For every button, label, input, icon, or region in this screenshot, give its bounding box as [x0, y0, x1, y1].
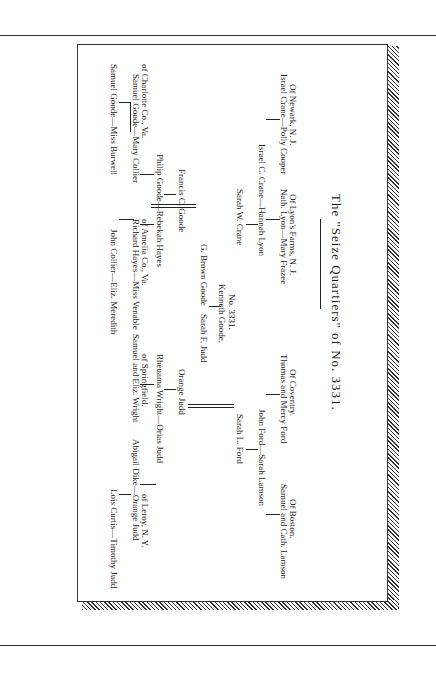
person-samuel-goode-miss-burwell: Samuel Goode—Miss Burwell: [109, 64, 118, 175]
connector-line: [266, 119, 280, 120]
location-amelia-co: of Amelia Co., Va.: [140, 219, 149, 286]
top-page-rule: [0, 35, 436, 36]
location-newark-nj: Of Newark, N. J.: [288, 84, 297, 145]
chart-title: The "Seize Quartiers" of No. 3331.: [328, 194, 344, 411]
person-rheuama-wright-orias-judd: Rheuama Wright—Orias Judd: [155, 354, 164, 463]
location-springfield: of Springfield.: [140, 354, 149, 407]
person-richard-hayes-miss-venable: Richard Hayes—Miss Venable: [131, 219, 140, 330]
bottom-page-rule: [0, 645, 436, 646]
genealogy-chart: Samuel Goode—Miss Burwell John Collier—E…: [77, 44, 386, 600]
location-lyons-farms-nj: Of Lyon's Farms, N. J.: [288, 194, 297, 275]
connector-line: [140, 174, 154, 175]
double-line-judd: [188, 407, 234, 408]
person-sarah-l-ford: Sarah L. Ford: [235, 414, 244, 464]
connector-line: [119, 494, 131, 495]
person-sarah-f-judd: Sarah F. Judd: [199, 314, 208, 363]
person-nath-lyon-mary-frazee: Nath. Lyon—Mary Frazee: [279, 189, 288, 284]
double-line-goode: [151, 204, 196, 205]
subject-kenneth-goode: Kenneth Goode,: [217, 284, 226, 343]
person-israel-crane-polly-cooper: Israel Crane—Polly Cooper: [279, 74, 288, 174]
connector-line: [246, 224, 258, 225]
connector-line: [140, 484, 156, 485]
box-shadow-right: [387, 46, 399, 610]
connector-line: [266, 394, 280, 395]
person-john-ford-sarah-lamson: John Ford—Sarah Lamson: [257, 409, 266, 506]
double-line-goode: [151, 207, 196, 208]
double-line-judd: [188, 404, 234, 405]
connector-line: [209, 306, 221, 307]
connector-line: [140, 224, 154, 225]
person-john-collier-eliz-meredith: John Collier—Eliz. Meredith: [109, 229, 118, 334]
person-samuel-eliz-wright: Samuel and Eliz. Wright: [131, 334, 140, 422]
connector-line: [266, 514, 280, 515]
connector-line: [266, 219, 280, 220]
person-thomas-mercy-ford: Thomas and Mercy Ford: [279, 354, 288, 443]
connector-line: [246, 449, 258, 450]
person-samuel-cath-lamson: Samuel and Cath. Lamson: [279, 484, 288, 579]
caption-rule: [320, 219, 321, 309]
person-samuel-goode-mary-collier: Samuel Goode—Mary Collier: [131, 74, 140, 183]
connector-line: [164, 194, 176, 195]
person-lois-curtis-timothy-judd: Lois Curtis—Timothy Judd: [109, 489, 118, 588]
location-leroy-ny: of Leroy, N. Y.: [140, 494, 149, 547]
connector-line: [140, 384, 154, 385]
connector-line: [130, 102, 131, 132]
location-charlotte-co: of Charlotte Co., Va.: [140, 64, 149, 138]
location-coventry: Of Coventry.: [288, 369, 297, 416]
person-abigail-dike-orange-judd: Abigail Dike—Orange Judd: [131, 439, 140, 540]
person-francis-c-goode: Francis C. Goode: [177, 169, 186, 232]
subject-number: No. 3331.: [227, 294, 236, 330]
person-israel-c-crane-hannah-lyon: Israel C. Crane—Hannah Lyon: [257, 144, 266, 256]
connector-line: [119, 219, 134, 220]
person-philip-goode-rebekah-hayes: Philip Goode—Rebekah Hayes: [155, 154, 164, 267]
person-orange-judd: Orange Judd: [177, 369, 186, 415]
location-boston: Of Boston.: [288, 499, 297, 539]
person-g-brown-goode: G. Brown Goode: [199, 244, 208, 306]
connector-line: [164, 389, 176, 390]
person-sarah-w-crane: Sarah W. Crane: [235, 189, 244, 245]
